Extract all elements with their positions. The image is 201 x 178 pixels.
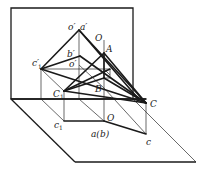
label-C1: C: [53, 89, 60, 99]
label-C1-sub: 1: [60, 93, 64, 100]
label-a-b: a(b): [91, 129, 110, 139]
label-C: C: [150, 99, 157, 109]
label-c1-sub: 1: [59, 124, 63, 131]
label-B: B: [94, 84, 102, 94]
projection-diagram: o′ a′ O A b′ c′ 1 o′ C 1 B C O c 1 a(b) …: [0, 0, 201, 178]
label-O-top: O: [95, 33, 103, 43]
label-o-double-prime: o′: [69, 59, 76, 69]
label-A: A: [105, 44, 113, 54]
point-labels: o′ a′ O A b′ c′ 1 o′ C 1 B C O c 1 a(b) …: [32, 22, 157, 147]
label-c1-prime-sub: 1: [38, 63, 42, 70]
label-c: c: [146, 137, 151, 147]
label-O-bottom: O: [107, 113, 115, 123]
label-a-prime: a′: [80, 22, 87, 32]
label-b-prime: b′: [67, 49, 75, 59]
label-o-prime: o′: [68, 22, 75, 32]
